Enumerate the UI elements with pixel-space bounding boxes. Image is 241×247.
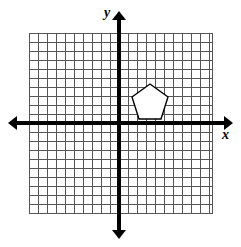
x-axis-label: x: [222, 128, 229, 142]
coordinate-plane-svg: [0, 0, 241, 247]
y-axis-label: y: [104, 6, 110, 20]
coordinate-plane-figure: y x: [0, 0, 241, 247]
